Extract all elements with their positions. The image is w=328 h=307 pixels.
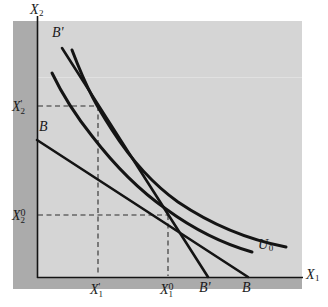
tick-label-x1-prime: X'1 [90,281,105,297]
label-budget-line-b-prime-bottom: B' [199,281,211,295]
figure-canvas: X2 X1 X'2 X02 X'1 X01 B' B U0 B' B [0,0,328,307]
label-budget-line-b-bottom: B [242,281,251,295]
budget-line-b [37,140,248,277]
tick-label-x2-prime: X'2 [12,98,27,114]
dashed-guides-group [38,106,168,276]
tick-label-x1-zero: X01 [160,281,175,297]
x-axis-label: X1 [306,266,320,283]
budget-line-b-prime [62,48,208,277]
y-axis-label: X2 [30,1,44,18]
diagram-svg [0,0,328,307]
label-budget-line-b-left: B [39,120,48,134]
tick-label-x2-zero: X02 [12,207,27,223]
label-budget-line-b-prime-top: B' [52,26,64,40]
label-indifference-curve-u0: U0 [258,236,273,253]
